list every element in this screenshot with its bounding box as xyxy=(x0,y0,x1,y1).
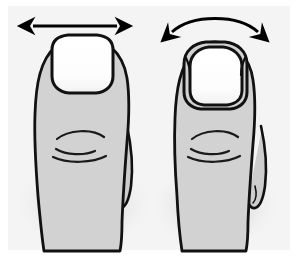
toenail-comparison-figure xyxy=(0,0,298,256)
figure-root xyxy=(0,0,298,256)
toenail-flat-wide xyxy=(52,35,113,93)
toenail-curved-narrow xyxy=(190,47,242,105)
